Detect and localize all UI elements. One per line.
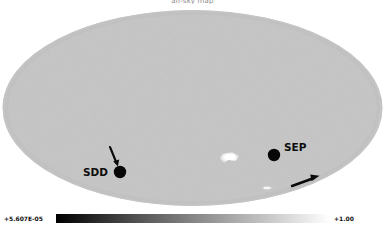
colorbar: +5.607E-05 +1.00 [0,212,385,228]
bright-feature-lower-bright-streak [261,186,273,190]
sdd-label: SDD [83,166,108,178]
sep-label: SEP [284,141,307,153]
figure-title: all-sky map [0,0,385,4]
sky-background-group [0,8,385,210]
lower-bright-streak-core [264,187,270,189]
colorbar-max-label: +1.00 [334,215,354,222]
mollweide-projection-svg: SDD SEP [0,8,385,210]
sky-noise-texture [0,8,385,210]
colorbar-min-label: +5.607E-05 [4,215,43,222]
sdd-marker-dot[interactable] [114,166,126,178]
skymap-panel: SDD SEP [0,8,385,210]
sky-map-figure: all-sky map [0,0,385,230]
sep-marker-dot[interactable] [268,149,280,161]
colorbar-gradient [56,214,330,223]
